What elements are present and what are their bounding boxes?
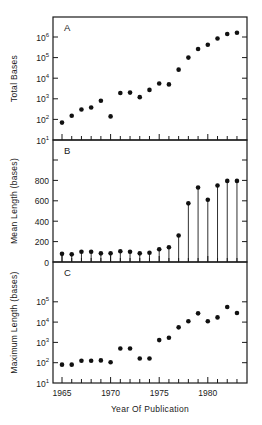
data-point	[147, 251, 152, 256]
data-point	[235, 30, 240, 35]
y-tick-label: 104	[36, 73, 49, 84]
panel-b: 0200400600800BMean Length (bases)	[9, 140, 247, 268]
data-point	[60, 252, 65, 257]
data-point	[79, 358, 84, 363]
data-point	[89, 105, 94, 110]
panel-frame	[53, 17, 247, 140]
x-tick-label: 1965	[53, 388, 72, 398]
data-point	[215, 315, 220, 320]
x-axis-title: Year Of Publication	[111, 404, 189, 414]
data-point	[69, 113, 74, 118]
data-point	[128, 346, 133, 351]
figure-canvas: 101102103104105106ATotal Bases0200400600…	[0, 0, 262, 425]
data-point	[196, 47, 201, 52]
data-point	[147, 356, 152, 361]
data-point	[69, 252, 74, 257]
y-tick-label: 104	[36, 317, 49, 328]
data-point	[196, 311, 201, 316]
x-tick-label: 1980	[198, 388, 217, 398]
data-point	[99, 98, 104, 103]
data-point	[137, 251, 142, 256]
data-point	[69, 362, 74, 367]
panel-letter: A	[64, 22, 71, 33]
data-point	[118, 346, 123, 351]
data-point	[235, 311, 240, 316]
panel-frame	[53, 262, 247, 383]
data-point	[118, 91, 123, 96]
data-point	[225, 305, 230, 310]
data-point	[176, 67, 181, 72]
y-tick-label: 101	[36, 135, 49, 146]
x-tick-label: 1970	[101, 388, 120, 398]
data-point	[79, 250, 84, 255]
data-point	[225, 32, 230, 37]
data-point	[147, 88, 152, 93]
y-tick-label: 105	[36, 52, 49, 63]
data-point	[206, 197, 211, 202]
data-point	[215, 36, 220, 41]
y-tick-label: 600	[35, 196, 49, 206]
panel-c: 101102103104105CMaximum Length (bases)	[9, 262, 247, 389]
data-point	[206, 42, 211, 47]
data-point	[60, 120, 65, 125]
data-point	[157, 81, 162, 86]
data-point	[186, 55, 191, 60]
panel-letter: B	[64, 145, 70, 156]
y-tick-label: 103	[36, 337, 49, 348]
data-point	[99, 251, 104, 256]
y-axis-title: Mean Length (bases)	[9, 158, 19, 244]
data-point	[137, 95, 142, 100]
y-tick-label: 103	[36, 93, 49, 104]
x-axis: 1965197019751980Year Of Publication	[53, 388, 218, 414]
data-point	[118, 249, 123, 254]
y-tick-label: 0	[44, 258, 49, 268]
data-point	[60, 362, 65, 367]
data-point	[89, 358, 94, 363]
data-point	[108, 251, 113, 256]
data-point	[225, 179, 230, 184]
data-point	[206, 319, 211, 324]
y-tick-label: 101	[36, 378, 49, 389]
data-point	[137, 356, 142, 361]
data-point	[128, 250, 133, 255]
panel-a: 101102103104105106ATotal Bases	[9, 17, 247, 146]
data-point	[157, 247, 162, 252]
data-point	[108, 360, 113, 365]
data-point	[79, 107, 84, 112]
y-tick-label: 102	[36, 114, 49, 125]
x-tick-label: 1975	[150, 388, 169, 398]
data-point	[128, 90, 133, 95]
data-point	[176, 325, 181, 330]
y-axis-title: Maximum Length (bases)	[9, 271, 19, 374]
y-axis-title: Total Bases	[9, 55, 19, 102]
data-point	[157, 338, 162, 343]
y-tick-label: 102	[36, 357, 49, 368]
data-point	[108, 114, 113, 119]
data-point	[167, 245, 172, 250]
y-tick-label: 105	[36, 296, 49, 307]
data-point	[167, 82, 172, 87]
data-point	[196, 185, 201, 190]
y-tick-label: 106	[36, 32, 49, 43]
three-panel-figure: 101102103104105106ATotal Bases0200400600…	[0, 0, 262, 425]
data-point	[186, 201, 191, 206]
data-point	[215, 183, 220, 188]
data-point	[176, 233, 181, 238]
y-tick-label: 800	[35, 176, 49, 186]
data-point	[99, 358, 104, 363]
y-tick-label: 200	[35, 237, 49, 247]
y-tick-label: 400	[35, 217, 49, 227]
data-point	[186, 319, 191, 324]
data-point	[235, 179, 240, 184]
data-point	[89, 250, 94, 255]
data-point	[167, 335, 172, 340]
panel-letter: C	[64, 267, 71, 278]
